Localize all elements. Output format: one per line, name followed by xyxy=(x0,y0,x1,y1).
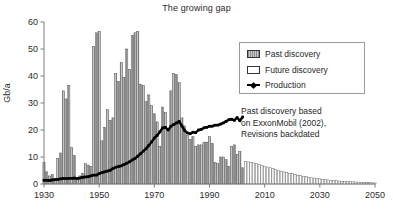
y-tick-label: 60 xyxy=(28,17,38,27)
growing-gap-chart: The growing gap Gb/a 0102030405060193019… xyxy=(0,0,393,220)
source-annotation: Past discovery based on ExxonMobil (2002… xyxy=(241,106,381,141)
y-tick-label: 40 xyxy=(28,71,38,81)
legend-label-future-discovery: Future discovery xyxy=(265,65,328,75)
annotation-line-2: on ExxonMobil (2002), xyxy=(241,118,381,130)
legend-label-past-discovery: Past discovery xyxy=(265,49,320,59)
legend-label-production: Production xyxy=(265,80,306,90)
annotation-line-3: Revisions backdated xyxy=(241,129,381,141)
x-tick-label: 1930 xyxy=(34,190,54,200)
x-tick-label: 2030 xyxy=(310,190,330,200)
x-tick-label: 1950 xyxy=(89,190,109,200)
future-discovery-swatch-icon xyxy=(247,66,260,74)
bar-series-future-discovery xyxy=(244,162,376,184)
y-tick-label: 10 xyxy=(28,152,38,162)
legend-item-future-discovery: Future discovery xyxy=(247,63,328,77)
x-tick-label: 1990 xyxy=(199,190,219,200)
annotation-line-1: Past discovery based xyxy=(241,106,381,118)
x-tick-label: 2010 xyxy=(255,190,275,200)
y-tick-label: 30 xyxy=(28,98,38,108)
legend: Past discovery Future discovery Producti… xyxy=(239,42,365,94)
production-line-swatch-icon xyxy=(247,81,260,89)
bar-series-past-discovery xyxy=(43,31,244,184)
legend-item-production: Production xyxy=(247,78,306,92)
past-discovery-swatch-icon xyxy=(247,50,260,58)
y-tick-label: 50 xyxy=(28,44,38,54)
y-tick-label: 20 xyxy=(28,125,38,135)
y-tick-label: 0 xyxy=(33,179,38,189)
legend-item-past-discovery: Past discovery xyxy=(247,47,320,61)
x-tick-label: 2050 xyxy=(365,190,385,200)
x-tick-label: 1970 xyxy=(144,190,164,200)
